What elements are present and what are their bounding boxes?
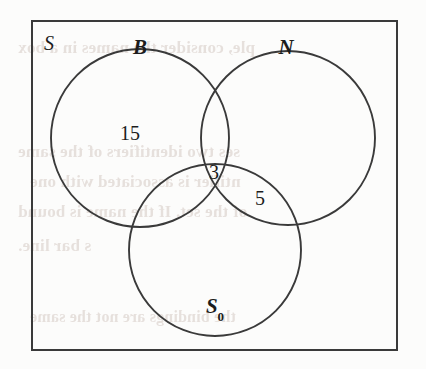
label-set-S0: S0 (206, 296, 224, 320)
count-N-S0: 5 (255, 188, 265, 208)
label-set-S0-subscript: 0 (218, 309, 225, 324)
figure-canvas: ple, consider the names in a box ses two… (0, 0, 426, 369)
circle-N (201, 51, 375, 225)
label-set-S0-base: S (206, 294, 218, 318)
label-set-N: N (278, 37, 293, 58)
label-set-B: B (133, 37, 147, 58)
label-universal-set-S: S (44, 33, 54, 53)
count-B-N-S0: 3 (209, 162, 219, 182)
count-B-only: 15 (120, 123, 140, 143)
circle-B (51, 49, 229, 227)
